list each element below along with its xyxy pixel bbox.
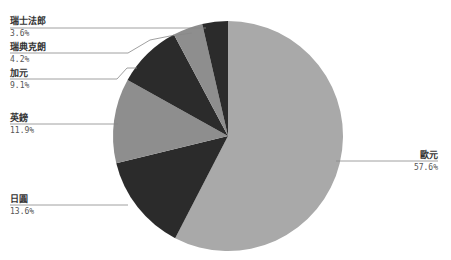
label-eur: 歐元 57.6% [414, 150, 438, 173]
label-cad-pct: 9.1% [10, 81, 29, 91]
label-eur-pct: 57.6% [414, 163, 438, 173]
label-sek: 瑞典克朗 4.2% [10, 42, 46, 65]
label-chf-name: 瑞士法郎 [10, 16, 46, 26]
label-gbp-name: 英鎊 [10, 113, 34, 123]
label-jpy-pct: 13.6% [10, 207, 34, 217]
label-jpy: 日圓 13.6% [10, 194, 34, 217]
label-cad: 加元 9.1% [10, 68, 29, 91]
pie-slices [113, 21, 343, 251]
label-sek-pct: 4.2% [10, 55, 46, 65]
label-gbp: 英鎊 11.9% [10, 113, 34, 136]
label-eur-name: 歐元 [414, 150, 438, 160]
label-sek-name: 瑞典克朗 [10, 42, 46, 52]
label-cad-name: 加元 [10, 68, 29, 78]
label-gbp-pct: 11.9% [10, 126, 34, 136]
label-chf: 瑞士法郎 3.6% [10, 16, 46, 39]
label-jpy-name: 日圓 [10, 194, 34, 204]
pie-chart [0, 0, 451, 260]
label-chf-pct: 3.6% [10, 29, 46, 39]
